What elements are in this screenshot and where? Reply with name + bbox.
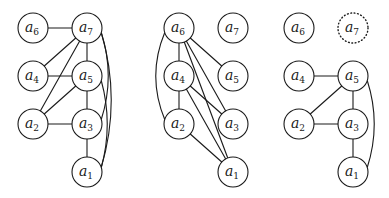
diagram-svg: a6a7a4a5a2a3a1a6a7a4a5a2a3a1a6a7a4a5a2a3… xyxy=(0,0,389,198)
node-a2: a2 xyxy=(164,109,194,139)
graph-left-edges xyxy=(33,28,111,172)
edge-a6-a2 xyxy=(156,33,165,120)
graph-middle-edges xyxy=(156,28,233,172)
node-a4: a4 xyxy=(164,61,194,91)
graph-diagram: a6a7a4a5a2a3a1a6a7a4a5a2a3a1a6a7a4a5a2a3… xyxy=(0,0,389,198)
node-a3: a3 xyxy=(72,109,102,139)
node-a1: a1 xyxy=(72,157,102,187)
node-a2: a2 xyxy=(284,109,314,139)
node-a4: a4 xyxy=(18,61,48,91)
node-a6: a6 xyxy=(164,13,194,43)
node-a1: a1 xyxy=(338,157,368,187)
node-a5: a5 xyxy=(218,61,248,91)
node-a7: a7 xyxy=(72,13,102,43)
node-a5: a5 xyxy=(338,61,368,91)
node-a5: a5 xyxy=(72,61,102,91)
edges-layer xyxy=(33,28,374,172)
node-a7: a7 xyxy=(218,13,248,43)
node-a3: a3 xyxy=(218,109,248,139)
node-a7: a7 xyxy=(338,13,368,43)
node-a6: a6 xyxy=(284,13,314,43)
node-a2: a2 xyxy=(18,109,48,139)
node-a4: a4 xyxy=(284,61,314,91)
node-a3: a3 xyxy=(338,109,368,139)
node-a6: a6 xyxy=(18,13,48,43)
node-a1: a1 xyxy=(218,157,248,187)
